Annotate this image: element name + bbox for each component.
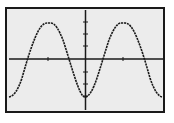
graph-plot	[0, 0, 174, 123]
y-axis	[83, 10, 88, 110]
